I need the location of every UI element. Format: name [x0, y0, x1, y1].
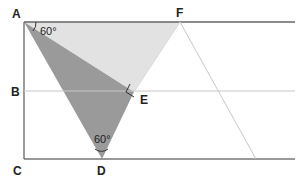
angle-label-D: 60° [94, 133, 111, 145]
label-B: B [11, 85, 20, 99]
label-D: D [97, 164, 106, 178]
label-A: A [12, 7, 21, 21]
label-E: E [140, 93, 148, 107]
geometry-diagram: A F B E C D 60° 60° [0, 0, 305, 185]
angle-label-A: 60° [40, 25, 57, 37]
label-C: C [13, 164, 22, 178]
label-F: F [176, 6, 183, 20]
